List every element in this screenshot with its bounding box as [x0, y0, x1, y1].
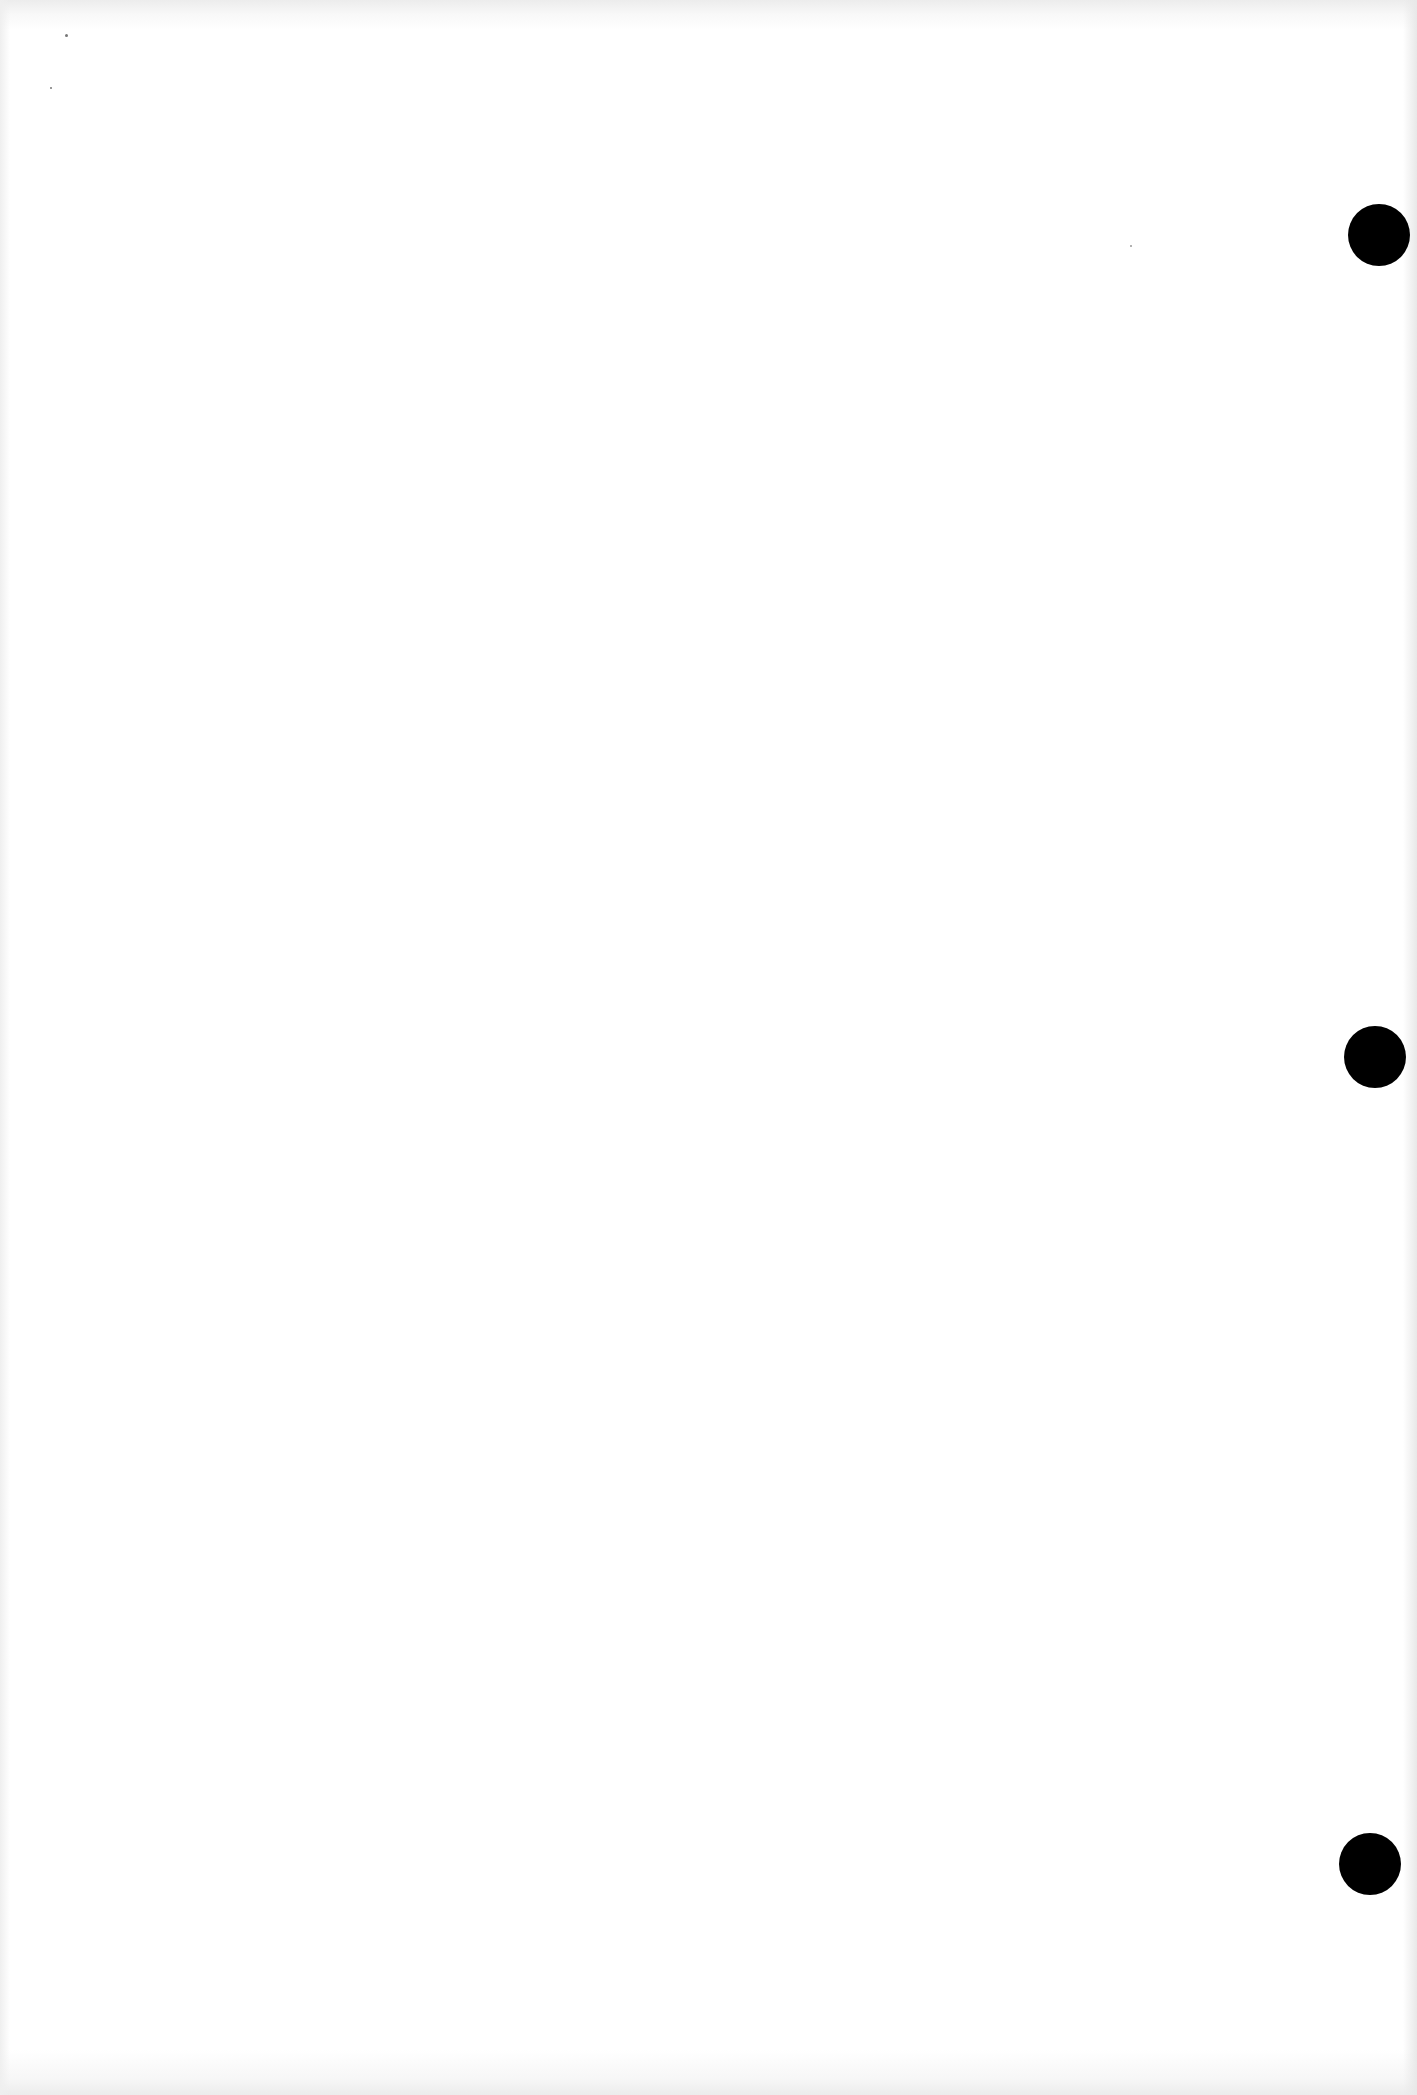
scanned-page	[0, 0, 1417, 2095]
punch-hole-bottom	[1339, 1833, 1401, 1895]
punch-hole-middle	[1344, 1026, 1406, 1088]
scan-speck	[65, 34, 68, 37]
punch-hole-top	[1348, 204, 1410, 266]
scan-speck	[50, 87, 52, 89]
scan-speck	[1130, 245, 1132, 247]
page-edge-shadow-left	[0, 0, 10, 2095]
page-edge-shadow-right	[1403, 0, 1417, 2095]
